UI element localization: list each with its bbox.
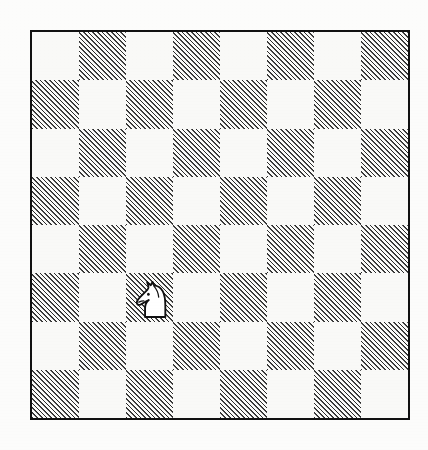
knight-eye (147, 293, 150, 296)
square-e7[interactable] (220, 80, 267, 128)
chess-diagram-scene: Chess Diagram (0, 0, 428, 450)
knight-body (137, 282, 166, 317)
square-f3[interactable] (267, 273, 314, 321)
square-d8[interactable] (173, 32, 220, 80)
square-a3[interactable] (32, 273, 79, 321)
square-h5[interactable] (361, 177, 408, 225)
square-h4[interactable] (361, 225, 408, 273)
square-e2[interactable] (220, 322, 267, 370)
square-g7[interactable] (314, 80, 361, 128)
square-d5[interactable] (173, 177, 220, 225)
square-f7[interactable] (267, 80, 314, 128)
square-e3[interactable] (220, 273, 267, 321)
square-a5[interactable] (32, 177, 79, 225)
square-c6[interactable] (126, 129, 173, 177)
square-d2[interactable] (173, 322, 220, 370)
square-d1[interactable] (173, 370, 220, 418)
square-h3[interactable] (361, 273, 408, 321)
square-h7[interactable] (361, 80, 408, 128)
knight-glyph (131, 278, 172, 320)
square-g4[interactable] (314, 225, 361, 273)
square-a8[interactable] (32, 32, 79, 80)
square-b2[interactable] (79, 322, 126, 370)
square-c1[interactable] (126, 370, 173, 418)
square-f5[interactable] (267, 177, 314, 225)
square-e6[interactable] (220, 129, 267, 177)
square-a7[interactable] (32, 80, 79, 128)
square-a6[interactable] (32, 129, 79, 177)
square-b1[interactable] (79, 370, 126, 418)
square-h1[interactable] (361, 370, 408, 418)
chessboard[interactable] (30, 30, 410, 420)
square-c4[interactable] (126, 225, 173, 273)
square-g2[interactable] (314, 322, 361, 370)
square-f8[interactable] (267, 32, 314, 80)
square-b7[interactable] (79, 80, 126, 128)
piece-white-knight-c3[interactable] (128, 275, 175, 323)
square-f2[interactable] (267, 322, 314, 370)
square-b3[interactable] (79, 273, 126, 321)
square-e8[interactable] (220, 32, 267, 80)
square-b8[interactable] (79, 32, 126, 80)
square-f6[interactable] (267, 129, 314, 177)
chessboard-grid (32, 32, 408, 418)
square-f4[interactable] (267, 225, 314, 273)
square-h6[interactable] (361, 129, 408, 177)
square-h2[interactable] (361, 322, 408, 370)
square-d3[interactable] (173, 273, 220, 321)
square-c8[interactable] (126, 32, 173, 80)
square-c5[interactable] (126, 177, 173, 225)
square-f1[interactable] (267, 370, 314, 418)
square-d6[interactable] (173, 129, 220, 177)
page-title: Chess Diagram (0, 21, 1, 22)
square-a2[interactable] (32, 322, 79, 370)
square-d4[interactable] (173, 225, 220, 273)
square-g6[interactable] (314, 129, 361, 177)
square-e5[interactable] (220, 177, 267, 225)
square-g5[interactable] (314, 177, 361, 225)
square-c7[interactable] (126, 80, 173, 128)
square-e4[interactable] (220, 225, 267, 273)
square-b5[interactable] (79, 177, 126, 225)
square-g3[interactable] (314, 273, 361, 321)
square-e1[interactable] (220, 370, 267, 418)
square-a1[interactable] (32, 370, 79, 418)
square-d7[interactable] (173, 80, 220, 128)
square-b4[interactable] (79, 225, 126, 273)
square-c2[interactable] (126, 322, 173, 370)
square-h8[interactable] (361, 32, 408, 80)
square-a4[interactable] (32, 225, 79, 273)
square-g1[interactable] (314, 370, 361, 418)
square-g8[interactable] (314, 32, 361, 80)
square-b6[interactable] (79, 129, 126, 177)
